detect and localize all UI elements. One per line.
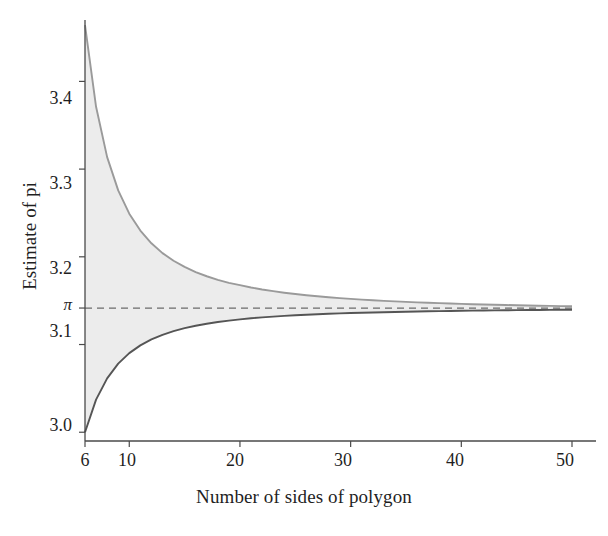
y-tick-label: 3.0	[12, 415, 72, 436]
chart-figure: 3.4 3.3 3.2 π 3.1 3.0 6 10 20 30 40 50 N…	[0, 0, 608, 536]
y-axis-title: Estimate of pi	[19, 136, 41, 336]
y-axis-ticks	[79, 81, 85, 432]
x-tick-label: 40	[430, 450, 480, 471]
bounds-band-fill	[85, 25, 572, 432]
x-tick-label: 20	[210, 450, 260, 471]
x-tick-label: 10	[102, 450, 152, 471]
x-axis-title: Number of sides of polygon	[0, 486, 608, 508]
y-tick-label: 3.4	[12, 88, 72, 109]
x-tick-label: 50	[540, 450, 590, 471]
x-axis-ticks	[85, 441, 572, 447]
x-tick-label: 30	[318, 450, 368, 471]
